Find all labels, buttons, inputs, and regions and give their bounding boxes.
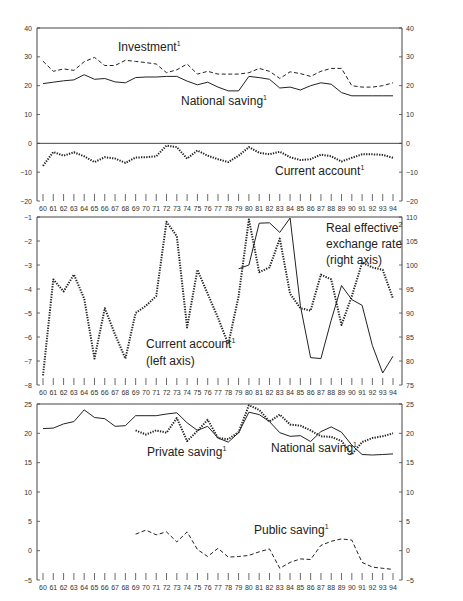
x-tick-label: 82	[266, 389, 274, 396]
x-tick-label: 85	[296, 389, 304, 396]
y-tick-label: −7	[24, 358, 32, 365]
x-tick-label: 79	[235, 584, 243, 591]
x-tick-label: 82	[266, 584, 274, 591]
x-tick-label: 64	[80, 205, 88, 212]
x-tick-label: 90	[348, 389, 356, 396]
y-tick-label: −1	[24, 214, 32, 221]
label-investment: Investment1	[118, 40, 181, 54]
x-tick-label: 83	[276, 584, 284, 591]
x-tick-label: 75	[194, 584, 202, 591]
right-y-tick-label: 90	[406, 310, 414, 317]
x-tick-label: 62	[60, 205, 68, 212]
x-tick-label: 85	[296, 205, 304, 212]
x-tick-label: 65	[91, 205, 99, 212]
label-current-account-mid: Current account1	[146, 337, 235, 351]
x-tick-label: 82	[266, 205, 274, 212]
right-y-tick-label: 75	[406, 382, 414, 389]
y-tick-label: 25	[24, 401, 32, 408]
x-tick-label: 88	[327, 205, 335, 212]
right-y-tick-label: 110	[406, 214, 417, 221]
x-tick-label: 88	[327, 389, 335, 396]
right-y-tick-label: 0	[406, 140, 410, 147]
y-tick-label: −2	[24, 238, 32, 245]
right-y-tick-label: 10	[406, 489, 414, 496]
label-right-axis: (right axis)	[326, 253, 382, 267]
y-tick-label: −6	[24, 334, 32, 341]
x-tick-label: 66	[101, 389, 109, 396]
x-tick-label: 64	[80, 389, 88, 396]
right-y-tick-label: 85	[406, 334, 414, 341]
right-y-tick-label: 5	[406, 518, 410, 525]
x-tick-label: 81	[255, 205, 263, 212]
x-tick-label: 89	[338, 389, 346, 396]
x-tick-label: 93	[379, 205, 387, 212]
x-tick-label: 63	[70, 205, 78, 212]
y-tick-label: 20	[24, 430, 32, 437]
x-tick-label: 91	[358, 205, 366, 212]
x-tick-label: 88	[327, 584, 335, 591]
x-tick-label: 66	[101, 584, 109, 591]
x-tick-label: 91	[358, 584, 366, 591]
x-tick-label: 84	[286, 584, 294, 591]
label-reer: Real effective2	[326, 221, 403, 235]
x-tick-label: 64	[80, 584, 88, 591]
x-tick-label: 78	[224, 584, 232, 591]
x-tick-label: 78	[224, 389, 232, 396]
y-tick-label: 10	[24, 489, 32, 496]
x-tick-label: 86	[307, 389, 315, 396]
x-tick-label: 86	[307, 205, 315, 212]
right-y-tick-label: 40	[406, 25, 414, 32]
x-tick-label: 67	[111, 584, 119, 591]
x-tick-label: 69	[132, 584, 140, 591]
label-national-saving-bottom: National saving1	[271, 441, 357, 455]
x-tick-label: 81	[255, 389, 263, 396]
y-tick-label: −10	[20, 169, 32, 176]
right-y-tick-label: 30	[406, 53, 414, 60]
right-y-tick-label: 25	[406, 401, 414, 408]
x-tick-label: 71	[152, 389, 160, 396]
x-tick-label: 75	[194, 389, 202, 396]
y-tick-label: −4	[24, 286, 32, 293]
x-tick-label: 72	[163, 389, 171, 396]
x-tick-label: 76	[204, 584, 212, 591]
x-tick-label: 70	[142, 205, 150, 212]
x-tick-label: 65	[91, 389, 99, 396]
x-tick-label: 81	[255, 584, 263, 591]
x-tick-label: 90	[348, 205, 356, 212]
y-tick-label: −20	[20, 198, 32, 205]
x-tick-label: 77	[214, 205, 222, 212]
x-tick-label: 61	[49, 389, 57, 396]
x-tick-label: 74	[183, 205, 191, 212]
x-tick-label: 73	[173, 584, 181, 591]
plot-frame	[37, 404, 402, 580]
x-tick-label: 84	[286, 389, 294, 396]
y-tick-label: 0	[28, 547, 32, 554]
right-y-tick-label: 100	[406, 262, 418, 269]
label-private-saving: Private saving1	[147, 445, 226, 459]
y-tick-label: −5	[24, 310, 32, 317]
x-tick-label: 60	[39, 389, 47, 396]
x-tick-label: 91	[358, 389, 366, 396]
x-tick-label: 89	[338, 205, 346, 212]
x-tick-label: 86	[307, 584, 315, 591]
right-y-tick-label: −20	[406, 198, 418, 205]
x-tick-label: 71	[152, 205, 160, 212]
x-tick-label: 74	[183, 389, 191, 396]
right-y-tick-label: −10	[406, 169, 418, 176]
y-tick-label: 5	[28, 518, 32, 525]
right-y-tick-label: 80	[406, 358, 414, 365]
x-tick-label: 80	[245, 205, 253, 212]
x-tick-label: 60	[39, 205, 47, 212]
x-tick-label: 61	[49, 584, 57, 591]
y-tick-label: 10	[24, 111, 32, 118]
x-tick-label: 76	[204, 389, 212, 396]
right-y-tick-label: 95	[406, 286, 414, 293]
x-tick-label: 62	[60, 389, 68, 396]
series-investment	[43, 57, 393, 87]
x-tick-label: 61	[49, 205, 57, 212]
x-tick-label: 63	[70, 584, 78, 591]
x-tick-label: 89	[338, 584, 346, 591]
right-y-tick-label: 0	[406, 547, 410, 554]
panel-bottom-chart: 6061626364656667686970717273747576777879…	[24, 401, 414, 592]
x-tick-label: 74	[183, 584, 191, 591]
